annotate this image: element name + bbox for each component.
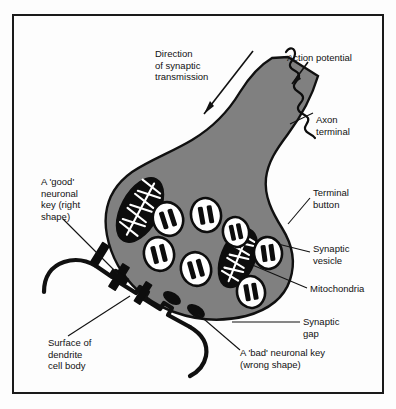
direction-label: Direction of synaptic transmission (155, 48, 208, 82)
synaptic-vesicle-label: Synaptic vesicle (313, 243, 352, 266)
mitochondria-label: Mitochondria (310, 283, 365, 294)
dendrite-surface-leader (68, 296, 130, 336)
synapse-diagram: Direction of synaptic transmission Actio… (0, 0, 396, 409)
bad-key-label: A 'bad' neuronal key (wrong shape) (240, 347, 328, 370)
good-key-label: A 'good' neuronal key (right shape) (41, 176, 83, 222)
dendrite-surface-label: Surface of dendrite cell body (48, 337, 94, 371)
figure-root: Direction of synaptic transmission Actio… (0, 0, 396, 409)
axon-terminal-label: Axon terminal (316, 114, 350, 137)
action-potential-label: Action potential (287, 52, 352, 63)
terminal-button-leader (288, 198, 310, 224)
terminal-button-label: Terminal button (313, 187, 352, 210)
synaptic-gap-label: Synaptic gap (303, 316, 342, 339)
